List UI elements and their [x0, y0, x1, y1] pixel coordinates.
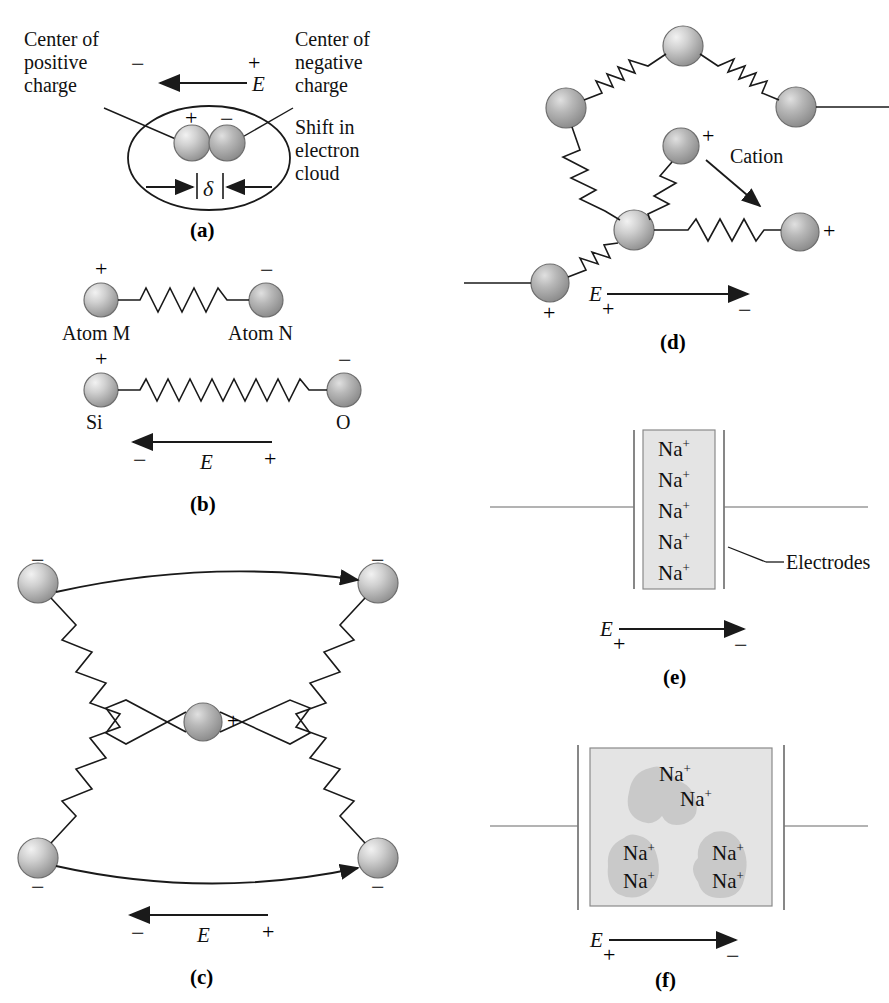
panel-d-sphere-bottom-left [531, 264, 569, 302]
panel-f-ion-4-label: Na [623, 869, 648, 893]
panel-a-atom-minus-sign: − [220, 107, 234, 131]
panel-f-ion-1-label: Na [659, 762, 684, 786]
panel-f-ion-6-label: Na [712, 869, 737, 893]
panel-f-ion-2-charge: + [705, 786, 712, 801]
panel-f-ion-3-label: Na [623, 841, 648, 865]
panel-b-field-minus-sign: − [133, 448, 147, 472]
panel-e-ion-4: Na+ [658, 529, 690, 555]
panel-d-sphere-far-right [781, 213, 819, 251]
panel-e-electrodes-leader [728, 547, 766, 562]
o-sphere [327, 373, 361, 407]
bond-spring-mn [118, 288, 249, 312]
panel-f-ion-6-charge: + [737, 868, 744, 883]
panel-c-graphics [18, 563, 398, 915]
label-center-positive-charge: Center of positive charge [24, 28, 99, 97]
label-o: O [336, 411, 350, 434]
panel-e-ion-4-label: Na [658, 530, 683, 554]
panel-e-ion-2-charge: + [683, 467, 690, 482]
panel-f-ion-4-charge: + [648, 868, 655, 883]
panel-d-cation-plus-sign: + [702, 125, 714, 147]
panel-a-graphics [104, 83, 293, 210]
panel-d-right-plus-sign: + [823, 220, 835, 242]
panel-c-arc-bottom [56, 866, 358, 884]
panel-c-sign-bottom-left: − [31, 875, 45, 899]
panel-e-ion-1-label: Na [658, 437, 683, 461]
panel-e-ion-3: Na+ [658, 498, 690, 524]
panel-b-atom-m-plus-sign: + [95, 258, 107, 280]
panel-c-spring-bottom-left [51, 700, 186, 843]
panel-c-sign-top-right: − [371, 548, 385, 572]
panel-c-center-plus-sign: + [227, 710, 239, 732]
panel-c-arc-top [56, 571, 358, 592]
panel-a-field-minus-sign: − [131, 52, 145, 76]
panel-d-field-plus-sign: + [602, 298, 614, 320]
panel-a-atom-plus-sign: + [185, 107, 197, 129]
panel-f-field-symbol: E [590, 928, 603, 953]
panel-b-o-minus-sign: − [338, 348, 352, 372]
panel-tag-f: (f) [655, 968, 676, 993]
panel-c-sphere-bottom-left [18, 838, 58, 878]
panel-f-ion-1-charge: + [684, 761, 691, 776]
panel-d-free-cation [663, 128, 699, 164]
panel-f-ion-2: Na+ [680, 786, 712, 812]
panel-e-ion-2: Na+ [658, 467, 690, 493]
panel-f-ion-3: Na+ [623, 840, 655, 866]
panel-f-ion-1: Na+ [659, 761, 691, 787]
panel-e-field-plus-sign: + [613, 633, 625, 655]
panel-e-ion-5-charge: + [683, 560, 690, 575]
panel-b-field-plus-sign: + [264, 448, 276, 470]
label-atom-m: Atom M [62, 322, 130, 345]
panel-e-ion-5: Na+ [658, 560, 690, 586]
panel-d-spring-cation-center [648, 162, 676, 220]
panel-a-field-plus-sign: + [248, 52, 260, 74]
label-cation: Cation [730, 145, 783, 168]
panel-tag-e: (e) [663, 665, 686, 690]
panel-b-field-symbol: E [200, 450, 213, 475]
label-atom-n: Atom N [228, 322, 293, 345]
panel-d-sphere-right [776, 87, 816, 127]
panel-d-spring-center-farright [654, 219, 781, 241]
panel-tag-c: (c) [190, 965, 213, 990]
panel-d-bottom-left-plus-sign: + [543, 302, 555, 324]
panel-d-graphics [464, 26, 889, 302]
panel-d-spring-bottomleft-center [568, 243, 618, 277]
panel-d-field-symbol: E [589, 282, 602, 307]
panel-d-field-minus-sign: − [738, 298, 752, 322]
panel-d-sphere-top [663, 26, 703, 66]
panel-b-graphics [84, 283, 361, 442]
panel-a-field-symbol: E [252, 72, 265, 97]
panel-f-ion-5-charge: + [737, 840, 744, 855]
panel-e-ion-1: Na+ [658, 436, 690, 462]
label-center-negative-charge: Center of negative charge [295, 28, 370, 97]
panel-e-ion-2-label: Na [658, 468, 683, 492]
panel-b-atom-n-minus-sign: − [260, 258, 274, 282]
polarization-figure: Center of positive charge Center of nega… [0, 0, 889, 1003]
panel-c-sphere-bottom-right [358, 838, 398, 878]
bond-spring-sio [118, 379, 327, 401]
positive-charge-sphere [174, 125, 210, 161]
panel-d-sphere-left [546, 88, 586, 128]
panel-tag-d: (d) [660, 330, 686, 355]
panel-c-center-cation [184, 703, 222, 741]
panel-c-field-symbol: E [197, 923, 210, 948]
atom-m-sphere [84, 283, 118, 317]
panel-c-field-plus-sign: + [262, 921, 274, 943]
delta-symbol: δ [203, 176, 213, 202]
panel-f-ion-4: Na+ [623, 868, 655, 894]
panel-e-ion-3-label: Na [658, 499, 683, 523]
panel-d-spring-left-center [563, 127, 620, 220]
panel-tag-a: (a) [190, 218, 215, 243]
label-electrodes: Electrodes [786, 551, 870, 574]
panel-d-spring-top-right [700, 54, 779, 100]
panel-f-ion-5-label: Na [712, 841, 737, 865]
panel-f-field-plus-sign: + [603, 944, 615, 966]
panel-b-si-plus-sign: + [95, 348, 107, 370]
panel-tag-b: (b) [190, 492, 216, 517]
panel-f-ion-2-label: Na [680, 787, 705, 811]
panel-f-field-minus-sign: − [726, 944, 740, 968]
panel-e-field-minus-sign: − [734, 633, 748, 657]
panel-e-ion-5-label: Na [658, 561, 683, 585]
panel-e-ion-4-charge: + [683, 529, 690, 544]
panel-f-ion-5: Na+ [712, 840, 744, 866]
panel-f-ion-3-charge: + [648, 840, 655, 855]
